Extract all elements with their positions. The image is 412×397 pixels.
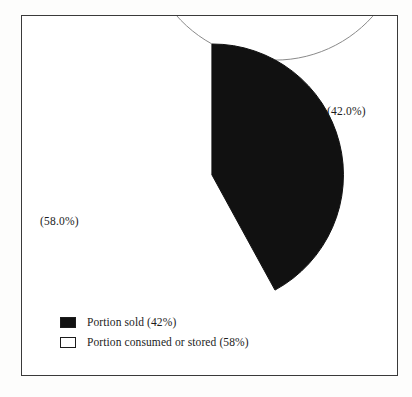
- legend-swatch-portion-consumed-or-stored: [60, 337, 76, 348]
- legend-label-portion-consumed-or-stored: Portion consumed or stored (58%): [87, 336, 249, 348]
- legend-label-portion-sold: Portion sold (42%): [87, 316, 176, 328]
- chart-legend: Portion sold (42%) Portion consumed or s…: [60, 312, 360, 352]
- scanned-page: (42.0%) (58.0%) Portion sold (42%) Porti…: [0, 0, 412, 397]
- legend-swatch-portion-sold: [60, 317, 76, 328]
- figure-frame: (42.0%) (58.0%) Portion sold (42%) Porti…: [21, 15, 398, 376]
- slice-label-portion-consumed-or-stored: (58.0%): [40, 215, 79, 227]
- legend-item-portion-sold[interactable]: Portion sold (42%): [60, 312, 360, 332]
- pie-slice-portion-sold[interactable]: [212, 44, 343, 290]
- slice-label-portion-sold: (42.0%): [327, 105, 366, 117]
- legend-item-portion-consumed-or-stored[interactable]: Portion consumed or stored (58%): [60, 332, 360, 352]
